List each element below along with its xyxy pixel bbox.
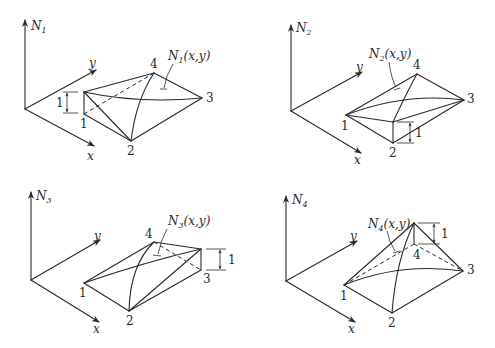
node-label-3: 3 — [203, 272, 211, 286]
y-axis-label: y — [349, 229, 357, 243]
axis-title-n3: N3 — [35, 189, 52, 205]
node-label-4: 4 — [145, 227, 153, 241]
x-axis-label: x — [354, 153, 361, 167]
unit-height-label: 1 — [415, 126, 423, 140]
axes-n3: N3 y x — [31, 189, 101, 336]
axis-title-n2: N2 — [295, 21, 312, 37]
node-label-2: 2 — [126, 314, 134, 328]
node-label-2: 2 — [388, 316, 396, 330]
node-label-3: 3 — [206, 91, 214, 105]
surface-n4: 1 1 2 3 4 N4(x,y) — [340, 217, 475, 330]
axes-n4: N4 y x — [286, 193, 357, 336]
node-label-4: 4 — [413, 248, 421, 262]
y-axis-label: y — [355, 60, 363, 74]
function-label-n4: N4(x,y) — [367, 217, 411, 233]
node-label-1: 1 — [79, 286, 87, 300]
unit-height-label: 1 — [56, 96, 64, 110]
y-axis-label: y — [93, 229, 101, 243]
node-label-1: 1 — [340, 289, 348, 303]
function-label-n1: N1(x,y) — [167, 49, 211, 65]
axes-n2: N2 y x — [291, 21, 363, 167]
node-label-3: 3 — [467, 263, 475, 277]
node-label-4: 4 — [413, 58, 421, 72]
x-axis-label: x — [87, 149, 94, 163]
y-axis-label: y — [88, 56, 96, 70]
node-label-2: 2 — [389, 146, 397, 160]
unit-height-label: 1 — [441, 227, 449, 241]
x-axis-label: x — [348, 322, 355, 336]
panel-n3: N3 y x 1 1 2 3 4 — [31, 189, 236, 336]
x-axis-label: x — [93, 322, 100, 336]
axis-title-n1: N1 — [30, 19, 47, 35]
function-label-n3: N3(x,y) — [167, 214, 211, 230]
surface-n1: 1 1 2 3 4 N1(x,y) — [56, 49, 214, 158]
panel-n1: N1 y x 1 1 2 3 4 — [25, 19, 214, 163]
function-label-n2: N2(x,y) — [368, 47, 412, 63]
node-label-1: 1 — [341, 119, 349, 133]
panel-n4: N4 y x 1 1 2 3 4 — [286, 193, 475, 336]
unit-height-label: 1 — [228, 253, 236, 267]
panel-n2: N2 y x 1 1 2 3 4 — [291, 21, 475, 167]
axes-n1: N1 y x — [25, 19, 96, 163]
surface-n3: 1 1 2 3 4 N3(x,y) — [79, 214, 236, 328]
shape-functions-figure: N1 y x 1 1 2 3 4 — [0, 0, 495, 348]
node-label-4: 4 — [150, 57, 158, 71]
node-label-3: 3 — [467, 92, 475, 106]
node-label-1: 1 — [80, 117, 88, 131]
axis-title-n4: N4 — [291, 193, 308, 209]
node-label-2: 2 — [127, 144, 135, 158]
